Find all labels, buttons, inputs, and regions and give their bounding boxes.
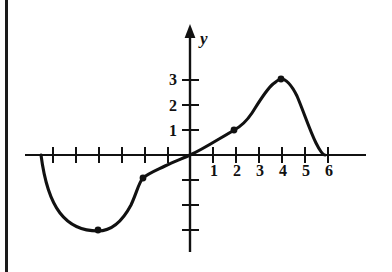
graph-canvas: [0, 0, 392, 272]
marked-point-local-minimum: [95, 227, 102, 234]
marked-point-local-maximum: [278, 76, 285, 83]
x-tick-label-3: 3: [251, 163, 269, 179]
x-tick-label-6: 6: [320, 163, 338, 179]
x-tick-label-2: 2: [228, 163, 246, 179]
x-tick-label-5: 5: [297, 163, 315, 179]
y-axis-arrow-icon: [185, 24, 196, 38]
marked-point-inflection-left: [140, 175, 147, 182]
marked-point-at-x2: [231, 127, 238, 134]
y-axis-label: y: [200, 30, 208, 47]
x-tick-label-4: 4: [274, 163, 292, 179]
y-tick-label-1: 1: [163, 123, 177, 139]
figure-page: y 1 2 3 4 5 6 1 2 3: [0, 0, 392, 272]
y-tick-label-3: 3: [163, 72, 177, 88]
y-tick-label-2: 2: [163, 98, 177, 114]
x-tick-label-1: 1: [205, 163, 223, 179]
